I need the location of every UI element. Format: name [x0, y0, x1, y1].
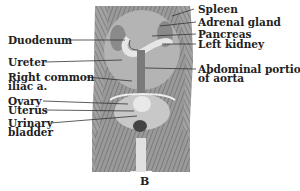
label-uterus: Uterus [8, 106, 48, 115]
anatomy-figure: Duodenum Ureter Right common iliac a. Ov… [0, 0, 300, 191]
label-left-kidney: Left kidney [198, 40, 264, 49]
label-bladder: bladder [8, 128, 53, 137]
label-iliac-a: iliac a. [8, 82, 47, 91]
anatomy-illustration [0, 0, 300, 191]
label-spleen: Spleen [198, 5, 238, 14]
label-duodenum: Duodenum [8, 36, 72, 45]
label-ureter: Ureter [8, 58, 46, 67]
label-of-aorta: of aorta [198, 74, 244, 83]
figure-caption: B [140, 175, 149, 188]
label-adrenal-gland: Adrenal gland [198, 18, 281, 27]
